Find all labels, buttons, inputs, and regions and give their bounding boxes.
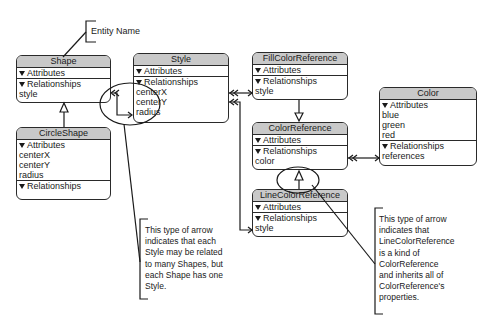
note-line: This type of arrow xyxy=(145,225,223,236)
relationships-section: Relationships style xyxy=(17,79,110,99)
note-line: This type of arrow xyxy=(379,214,455,225)
attributes-section: Attributes xyxy=(253,65,347,76)
inheritance-arrow-icon xyxy=(60,103,68,112)
relationship-item: color xyxy=(255,156,345,166)
attribute-item: green xyxy=(382,120,474,130)
note-line: properties. xyxy=(379,292,455,303)
entity-style[interactable]: Style Attributes Relationships centerX c… xyxy=(133,53,229,123)
attribute-item: blue xyxy=(382,110,474,120)
relationships-section: Relationships xyxy=(17,181,110,191)
entity-color-reference[interactable]: ColorReference Attributes Relationships … xyxy=(252,122,348,170)
relationship-item: centerX xyxy=(136,87,226,97)
entity-circle-shape[interactable]: CircleShape Attributes centerX centerY r… xyxy=(16,127,111,200)
note-line: ColorReference xyxy=(379,259,455,270)
entity-title: Style xyxy=(134,54,228,66)
entity-name-pointer xyxy=(63,32,86,57)
to-many-arrow-icon xyxy=(230,99,238,105)
relationship-item: references xyxy=(382,151,474,161)
relationship-note: This type of arrow indicates that each S… xyxy=(145,225,223,292)
entity-title: CircleShape xyxy=(17,128,110,140)
section-label: Attributes xyxy=(263,135,301,145)
attribute-item: red xyxy=(382,130,474,140)
entity-title: ColorReference xyxy=(253,123,347,135)
relationships-section: Relationships style xyxy=(253,76,347,96)
section-label: Relationships xyxy=(144,77,198,87)
section-label: Relationships xyxy=(27,181,81,191)
to-one-arrow-icon xyxy=(128,112,132,118)
attributes-section: Attributes xyxy=(134,66,228,77)
relationship-item: style xyxy=(255,223,345,233)
note-line: each Shape has one xyxy=(145,270,223,281)
note-line: Style. xyxy=(145,281,223,292)
entity-line-color-reference[interactable]: LineColorReference Attributes Relationsh… xyxy=(252,189,348,237)
section-label: Attributes xyxy=(27,140,65,150)
attributes-section: Attributes xyxy=(253,135,347,146)
entity-name-label: Entity Name xyxy=(91,26,140,37)
entity-fill-color-reference[interactable]: FillColorReference Attributes Relationsh… xyxy=(252,52,348,100)
attribute-item: centerX xyxy=(19,150,108,160)
note-line: to many Shapes, but xyxy=(145,259,223,270)
disclosure-triangle-icon[interactable] xyxy=(19,71,25,76)
section-label: Relationships xyxy=(263,213,317,223)
entity-title: FillColorReference xyxy=(253,53,347,65)
relationship-item: centerY xyxy=(136,97,226,107)
entity-title: Shape xyxy=(17,56,110,68)
note-line: ColorReference's xyxy=(379,281,455,292)
entity-title: Color xyxy=(380,88,476,100)
entity-title: LineColorReference xyxy=(253,190,347,202)
disclosure-triangle-icon[interactable] xyxy=(382,144,388,149)
relationship-item: style xyxy=(255,86,345,96)
section-label: Attributes xyxy=(144,66,182,76)
inheritance-arrow-icon xyxy=(295,113,303,121)
attribute-item: radius xyxy=(19,170,108,180)
attribute-item: centerY xyxy=(19,160,108,170)
attributes-section: Attributes blue green red xyxy=(380,100,476,141)
relationship-item: radius xyxy=(136,107,226,117)
note-line: indicates that each xyxy=(145,236,223,247)
relationship-line xyxy=(229,102,252,230)
attributes-section: Attributes xyxy=(253,202,347,213)
section-label: Attributes xyxy=(263,202,301,212)
inheritance-note: This type of arrow indicates that LineCo… xyxy=(379,214,455,304)
relationship-line xyxy=(112,93,131,115)
disclosure-triangle-icon[interactable] xyxy=(19,143,25,148)
note-line: is a kind of xyxy=(379,248,455,259)
disclosure-triangle-icon[interactable] xyxy=(255,216,261,221)
disclosure-triangle-icon[interactable] xyxy=(136,69,142,74)
note-line: LineColorReference xyxy=(379,236,455,247)
section-label: Relationships xyxy=(263,146,317,156)
entity-color[interactable]: Color Attributes blue green red Relation… xyxy=(379,87,477,166)
section-label: Relationships xyxy=(390,141,444,151)
section-label: Attributes xyxy=(263,65,301,75)
disclosure-triangle-icon[interactable] xyxy=(255,205,261,210)
note-line: and inherits all of xyxy=(379,270,455,281)
section-label: Attributes xyxy=(27,68,65,78)
section-label: Relationships xyxy=(263,76,317,86)
to-many-arrow-icon xyxy=(111,90,119,96)
disclosure-triangle-icon[interactable] xyxy=(19,82,25,87)
note-line: indicates that xyxy=(379,225,455,236)
inheritance-arrow-icon xyxy=(295,171,303,180)
disclosure-triangle-icon[interactable] xyxy=(382,103,388,108)
disclosure-triangle-icon[interactable] xyxy=(255,138,261,143)
note-line: Style may be related xyxy=(145,247,223,258)
to-many-arrow-icon xyxy=(230,90,238,96)
section-label: Relationships xyxy=(27,79,81,89)
disclosure-triangle-icon[interactable] xyxy=(19,184,25,189)
relationships-section: Relationships centerX centerY radius xyxy=(134,77,228,117)
relationships-section: Relationships style xyxy=(253,213,347,233)
to-many-arrow-icon xyxy=(349,155,357,161)
disclosure-triangle-icon[interactable] xyxy=(136,80,142,85)
note-pointer xyxy=(124,124,140,262)
disclosure-triangle-icon[interactable] xyxy=(255,149,261,154)
relationships-section: Relationships color xyxy=(253,146,347,166)
attributes-section: Attributes centerX centerY radius xyxy=(17,140,110,181)
disclosure-triangle-icon[interactable] xyxy=(255,79,261,84)
section-label: Attributes xyxy=(390,100,428,110)
entity-shape[interactable]: Shape Attributes Relationships style xyxy=(16,55,111,103)
disclosure-triangle-icon[interactable] xyxy=(255,68,261,73)
attributes-section: Attributes xyxy=(17,68,110,79)
relationships-section: Relationships references xyxy=(380,141,476,161)
relationship-item: style xyxy=(19,89,108,99)
